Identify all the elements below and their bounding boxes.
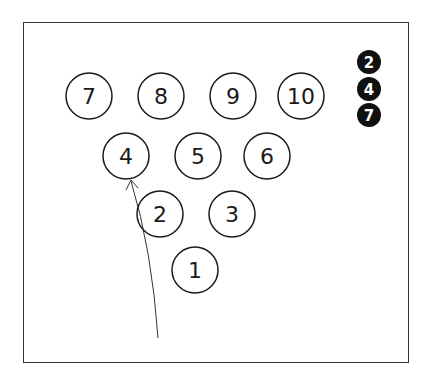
marker-4: 4 (357, 77, 381, 101)
bowling-pin-diagram: 7 8 9 10 4 5 6 2 3 1 2 4 (0, 0, 432, 380)
pin-label: 8 (154, 84, 168, 109)
marker-label: 4 (364, 81, 374, 99)
pin-6: 6 (244, 133, 290, 179)
pin-label: 7 (82, 84, 96, 109)
pin-label: 5 (191, 144, 205, 169)
pin-4: 4 (103, 133, 149, 179)
pin-label: 2 (153, 202, 167, 227)
pin-label: 3 (225, 202, 239, 227)
pin-2: 2 (137, 191, 183, 237)
pin-8: 8 (138, 73, 184, 119)
pin-label: 10 (287, 84, 315, 109)
pin-label: 6 (260, 144, 274, 169)
pin-1: 1 (172, 247, 218, 293)
pin-label: 9 (226, 84, 240, 109)
pin-label: 1 (188, 258, 202, 283)
marker-2: 2 (357, 50, 381, 74)
marker-label: 2 (364, 54, 374, 72)
pin-5: 5 (175, 133, 221, 179)
pin-3: 3 (209, 191, 255, 237)
pin-9: 9 (210, 73, 256, 119)
marker-7: 7 (357, 103, 381, 127)
pin-10: 10 (278, 73, 324, 119)
pin-label: 4 (119, 144, 133, 169)
marker-label: 7 (364, 107, 374, 125)
pin-7: 7 (66, 73, 112, 119)
